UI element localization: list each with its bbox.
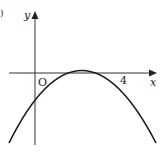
graph-canvas: ) y x O 4 (0, 0, 166, 157)
y-axis-arrow-icon (32, 11, 39, 19)
root-label: 4 (120, 74, 127, 87)
y-axis-label: y (23, 9, 31, 22)
x-axis-label: x (150, 76, 157, 89)
corner-mark: ) (0, 8, 4, 18)
parabola-curve (9, 71, 156, 144)
